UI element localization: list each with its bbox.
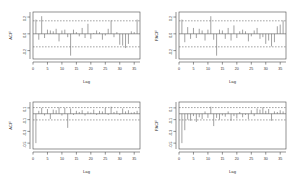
plot-frame (179, 12, 286, 59)
y-axis-title: ACF (8, 31, 13, 40)
x-tick-label: 20 (234, 67, 238, 71)
y-tick-label: 0.1 (23, 107, 27, 112)
x-tick-label: 10 (205, 157, 209, 161)
plot-grid: 05101520253035-0.20.00.2LagACF 051015202… (0, 0, 291, 180)
x-axis-title: Lag (229, 169, 237, 174)
spike-series (36, 16, 137, 55)
spike-series (36, 107, 137, 143)
x-tick-label: 5 (192, 67, 194, 71)
x-tick-label: 20 (89, 67, 93, 71)
y-tick-label: -0.2 (23, 49, 27, 55)
x-tick-label: 0 (178, 157, 180, 161)
y-tick-label: -0.2 (168, 49, 172, 55)
x-tick-label: 10 (60, 67, 64, 71)
y-tick-label: -0.5 (168, 141, 172, 147)
x-tick-label: 30 (118, 157, 122, 161)
x-tick-label: 30 (263, 157, 267, 161)
x-axis-title: Lag (83, 169, 91, 174)
x-tick-label: 0 (178, 67, 180, 71)
panel-acf-top-left: 05101520253035-0.20.00.2LagACF (0, 0, 146, 90)
plot-frame (33, 12, 140, 59)
spike-series (181, 107, 282, 143)
x-tick-label: 0 (32, 67, 34, 71)
x-tick-label: 5 (46, 157, 48, 161)
y-tick-label: 0.1 (168, 107, 172, 112)
x-tick-label: 25 (249, 67, 253, 71)
x-tick-label: 15 (220, 157, 224, 161)
panel-acf-bottom-left: 05101520253035-0.5-0.3-0.10.1LagACF (0, 90, 146, 180)
plot-frame (33, 102, 140, 149)
y-tick-label: 0.0 (23, 33, 27, 38)
x-axis-title: Lag (229, 79, 237, 84)
y-tick-label: -0.3 (23, 130, 27, 136)
x-tick-label: 35 (132, 157, 136, 161)
plot-frame (179, 102, 286, 149)
pacf-top-right: 05101520253035-0.20.00.2LagPACF (146, 0, 292, 90)
x-tick-label: 30 (263, 67, 267, 71)
x-tick-label: 15 (74, 67, 78, 71)
y-tick-label: -0.1 (23, 118, 27, 124)
x-tick-label: 0 (32, 157, 34, 161)
y-tick-label: 0.0 (168, 33, 172, 38)
x-tick-label: 10 (60, 157, 64, 161)
x-tick-label: 35 (278, 67, 282, 71)
y-tick-label: -0.3 (168, 130, 172, 136)
x-tick-label: 10 (205, 67, 209, 71)
panel-pacf-top-right: 05101520253035-0.20.00.2LagPACF (146, 0, 292, 90)
x-tick-label: 25 (249, 157, 253, 161)
x-tick-label: 25 (103, 67, 107, 71)
panel-pacf-bottom-right: 05101520253035-0.5-0.3-0.10.1LagPACF (146, 90, 292, 180)
x-tick-label: 30 (118, 67, 122, 71)
x-tick-label: 20 (234, 157, 238, 161)
x-tick-label: 5 (192, 157, 194, 161)
x-tick-label: 35 (278, 157, 282, 161)
x-tick-label: 20 (89, 157, 93, 161)
y-tick-label: -0.1 (168, 118, 172, 124)
y-tick-label: 0.2 (23, 16, 27, 21)
x-tick-label: 5 (46, 67, 48, 71)
y-axis-title: PACF (154, 30, 159, 41)
x-axis-title: Lag (83, 79, 91, 84)
x-tick-label: 15 (220, 67, 224, 71)
spike-series (181, 16, 282, 55)
pacf-bottom-right: 05101520253035-0.5-0.3-0.10.1LagPACF (146, 90, 292, 180)
x-tick-label: 15 (74, 157, 78, 161)
acf-bottom-left: 05101520253035-0.5-0.3-0.10.1LagACF (0, 90, 146, 180)
y-tick-label: -0.5 (23, 141, 27, 147)
y-axis-title: PACF (154, 120, 159, 131)
acf-top-left: 05101520253035-0.20.00.2LagACF (0, 0, 146, 90)
x-tick-label: 25 (103, 157, 107, 161)
x-tick-label: 35 (132, 67, 136, 71)
y-tick-label: 0.2 (168, 16, 172, 21)
y-axis-title: ACF (8, 121, 13, 130)
